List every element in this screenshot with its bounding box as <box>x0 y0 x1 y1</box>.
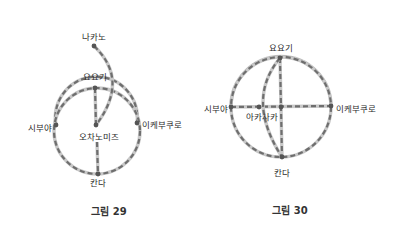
figure-29-caption: 그림 29 <box>91 206 126 217</box>
figure-30: 요요기 시부야 아카사카 이케부쿠로 칸다 그림 30 <box>204 43 376 216</box>
figure-29: 나카노 요요기 오차노미즈 시부야 이케부쿠로 칸다 그림 29 <box>28 32 182 217</box>
node-shibuya <box>54 123 59 128</box>
label-akasaka: 아카사카 <box>246 112 278 122</box>
node-yoyogi <box>93 86 98 91</box>
label-nakano: 나카노 <box>82 32 106 42</box>
label-yoyogi: 요요기 <box>269 43 293 53</box>
diagram-canvas: 나카노 요요기 오차노미즈 시부야 이케부쿠로 칸다 그림 29 <box>0 0 397 231</box>
fig29-ochanomizu-kanda-line <box>97 142 98 174</box>
label-ochanomizu: 오차노미즈 <box>79 132 119 142</box>
node-kanda <box>96 172 101 177</box>
label-shibuya: 시부야 <box>28 123 52 133</box>
label-ikebukuro: 이케부쿠로 <box>336 104 376 114</box>
label-yoyogi: 요요기 <box>83 72 107 82</box>
node-kanda <box>280 155 285 160</box>
node-akasaka <box>257 105 262 110</box>
node-ikebukuro <box>329 104 334 109</box>
label-kanda: 칸다 <box>274 168 290 178</box>
node-shibuya <box>229 105 234 110</box>
label-shibuya: 시부야 <box>204 104 228 114</box>
node-center <box>279 105 284 110</box>
label-ikebukuro: 이케부쿠로 <box>142 120 182 130</box>
figure-30-caption: 그림 30 <box>272 205 307 216</box>
fig29-yoyogi-ochanomizu-line <box>95 88 96 125</box>
node-ochanomizu <box>94 123 99 128</box>
node-ikebukuro <box>135 121 140 126</box>
label-kanda: 칸다 <box>90 178 106 188</box>
node-nakano <box>92 44 97 49</box>
node-yoyogi <box>278 56 283 61</box>
